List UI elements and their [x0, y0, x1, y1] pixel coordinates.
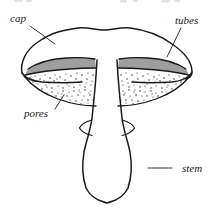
label-pores: pores: [23, 107, 48, 119]
stem-group: [80, 60, 135, 203]
left-tube-bottom-edge: [25, 68, 96, 75]
page-edge-artifacts: [14, 0, 180, 3]
stem-left-edge: [83, 60, 104, 202]
right-tube-layer: [118, 50, 189, 85]
right-tube-bottom-edge: [118, 68, 189, 75]
stem-base: [104, 202, 110, 203]
left-tube-layer: [25, 50, 96, 85]
label-cap: cap: [10, 12, 26, 24]
pores-leader-line: [55, 95, 64, 109]
label-tubes: tubes: [175, 14, 198, 26]
stem-right-edge: [110, 60, 131, 202]
right-pore-layer: [118, 72, 190, 106]
cap-outline-group: [22, 28, 192, 83]
labels-group: cap tubes pores stem: [10, 12, 202, 174]
mushroom-anatomy-svg: cap tubes pores stem: [0, 0, 214, 217]
left-tube-hatching: [27, 50, 95, 85]
right-tube-hatching: [119, 50, 187, 85]
cap-left-margin: [22, 73, 82, 83]
label-stem: stem: [182, 162, 202, 174]
mushroom-diagram-figure: cap tubes pores stem: [0, 0, 214, 217]
